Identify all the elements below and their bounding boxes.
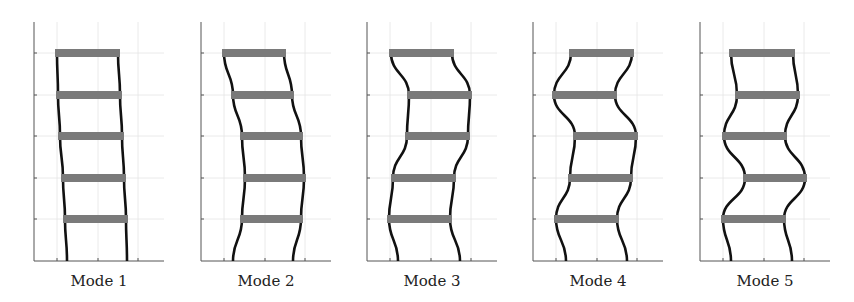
floor-beam-5 <box>569 49 634 57</box>
right-column <box>784 53 805 261</box>
mode-2-label: Mode 2 <box>201 272 331 290</box>
right-column <box>284 53 304 261</box>
left-column <box>389 53 409 261</box>
floor-beam-1 <box>387 215 452 223</box>
floor-beam-2 <box>61 174 126 182</box>
floor-beam-5 <box>729 49 795 57</box>
right-column <box>450 53 470 261</box>
floor-beam-3 <box>573 132 638 140</box>
panel-mode-4 <box>533 22 663 261</box>
panel-mode-1 <box>34 22 164 261</box>
floor-beam-2 <box>743 174 807 182</box>
floor-beam-3 <box>58 132 124 140</box>
floor-beam-4 <box>231 91 294 99</box>
panel-mode-3 <box>367 22 497 261</box>
mode-1-label: Mode 1 <box>34 272 164 290</box>
mode-3-label: Mode 3 <box>367 272 497 290</box>
floor-beam-2 <box>243 174 306 182</box>
floor-beam-1 <box>240 215 303 223</box>
floor-beam-4 <box>735 91 800 99</box>
left-column <box>554 53 575 261</box>
floor-beam-3 <box>405 132 470 140</box>
right-column <box>118 53 127 261</box>
right-column <box>615 53 636 261</box>
floor-beam-1 <box>721 215 786 223</box>
mode-shapes-figure <box>0 0 854 302</box>
floor-beam-4 <box>552 91 617 99</box>
floor-beam-1 <box>554 215 619 223</box>
floor-beam-4 <box>407 91 472 99</box>
left-column <box>224 53 245 261</box>
panel-mode-2 <box>201 22 331 261</box>
floor-beam-2 <box>391 174 456 182</box>
floor-beam-4 <box>56 91 122 99</box>
left-column <box>723 53 745 261</box>
floor-beam-5 <box>389 49 454 57</box>
floor-beam-3 <box>722 132 787 140</box>
floor-beam-5 <box>55 49 120 57</box>
floor-beam-2 <box>568 174 633 182</box>
floor-beam-5 <box>222 49 286 57</box>
left-column <box>57 53 67 261</box>
mode-5-label: Mode 5 <box>700 272 830 290</box>
panel-mode-5 <box>700 22 830 261</box>
floor-beam-3 <box>240 132 303 140</box>
floor-beam-1 <box>63 215 128 223</box>
mode-4-label: Mode 4 <box>533 272 663 290</box>
